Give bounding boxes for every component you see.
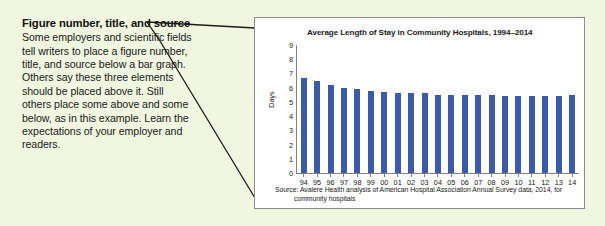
bar-slot [565,45,578,173]
bar [448,95,454,173]
bar [368,91,374,173]
bar [395,93,401,173]
bar [422,93,428,173]
source-note-line1: Source: Avalere Health analysis of Ameri… [275,186,562,193]
x-axis-tick-mark [558,174,559,177]
bar-slot [351,45,364,173]
bar [502,96,508,173]
bar [341,88,347,173]
bar-slot [485,45,498,173]
bar-slot [445,45,458,173]
bar [475,95,481,173]
x-axis-tick-mark [531,174,532,177]
x-axis-tick-mark [518,174,519,177]
x-axis-tick-mark [424,174,425,177]
x-axis-tick-mark [384,174,385,177]
chart-panel: Average Length of Stay in Community Hosp… [254,17,585,209]
bar [515,96,521,173]
source-note: Source: Avalere Health analysis of Ameri… [275,185,571,203]
plot-area: Days 9876543210 949596979899000102030405… [279,45,579,173]
x-axis-tick-mark [505,174,506,177]
bar-slot [525,45,538,173]
chart-title: Average Length of Stay in Community Hosp… [307,28,533,37]
bar-slot [391,45,404,173]
bar [569,95,575,173]
bar-slot [418,45,431,173]
y-axis-tick-label: 5 [289,97,293,106]
x-axis-tick-mark [437,174,438,177]
y-axis-tick-label: 4 [289,112,293,121]
bar-slot [552,45,565,173]
bar-slot [378,45,391,173]
annotation-block: Figure number, title, and source Some em… [22,16,194,152]
bar [462,95,468,173]
x-axis-tick-mark [330,174,331,177]
y-axis-tick-label: 7 [289,69,293,78]
y-axis-tick-label: 8 [289,55,293,64]
y-axis-tick-label: 6 [289,83,293,92]
y-axis-tick-label: 1 [289,154,293,163]
x-axis-tick-mark [545,174,546,177]
bar [328,85,334,173]
bar [542,96,548,173]
bar [301,78,307,173]
x-axis-tick-mark [478,174,479,177]
bar [381,92,387,173]
x-axis-tick-mark [572,174,573,177]
bar-slot [337,45,350,173]
x-axis-tick-mark [370,174,371,177]
y-axis-title: Days [267,91,276,107]
bar [354,89,360,173]
x-axis-tick-mark [317,174,318,177]
bar-slot [310,45,323,173]
x-axis-tick-mark [303,174,304,177]
bar [529,96,535,173]
bar-slot [498,45,511,173]
bar-slot [458,45,471,173]
annotation-heading: Figure number, title, and source [22,16,194,30]
bar [435,95,441,173]
x-axis-tick-mark [491,174,492,177]
bar [556,96,562,173]
bar-slot [431,45,444,173]
bar-slot [404,45,417,173]
x-axis-tick-mark [397,174,398,177]
y-axis-tick-label: 3 [289,126,293,135]
x-axis-tick-mark [451,174,452,177]
y-axis-ticks: 9876543210 [279,45,295,173]
bar-slot [539,45,552,173]
bar [489,95,495,173]
bar-slot [297,45,310,173]
bar-slot [364,45,377,173]
bar [314,81,320,173]
y-axis-tick-label: 2 [289,140,293,149]
bar-slot [471,45,484,173]
y-axis-tick-label: 0 [289,169,293,178]
bar-slot [512,45,525,173]
x-axis-tick-mark [343,174,344,177]
x-axis-tick-mark [464,174,465,177]
y-axis-tick-label: 9 [289,41,293,50]
annotation-body: Some employers and scientific fields tel… [22,31,194,152]
x-axis-tick-mark [411,174,412,177]
bar [408,93,414,173]
x-axis-tick-mark [357,174,358,177]
source-note-line2: community hospitals [275,194,571,203]
bar-slot [324,45,337,173]
bar-series [297,45,579,173]
